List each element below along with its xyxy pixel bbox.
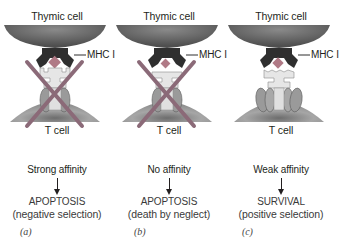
- panel-b-illustration: [112, 0, 226, 160]
- affinity-label: No affinity: [112, 164, 226, 175]
- down-arrow-icon: [169, 178, 170, 192]
- t-cell-label: T cell: [224, 124, 338, 136]
- thymic-cell: [116, 25, 218, 48]
- peptide: [272, 57, 283, 68]
- t-cell-receptor: [264, 70, 294, 88]
- mhc-label: MHC I: [199, 49, 227, 60]
- down-arrow-icon: [281, 178, 282, 192]
- affinity-label: Strong affinity: [0, 164, 114, 175]
- panel-c-illustration: [224, 0, 338, 160]
- outcome-label: APOPTOSIS: [0, 196, 114, 207]
- affinity-label: Weak affinity: [224, 164, 338, 175]
- panel-b: Thymic cell MHC I T cell No affinity APO…: [112, 0, 226, 240]
- panel-letter: (b): [134, 226, 145, 237]
- thymic-cell: [4, 25, 106, 48]
- peptide: [161, 59, 171, 69]
- mhc-label: MHC I: [87, 49, 115, 60]
- selection-detail: (negative selection): [0, 208, 114, 220]
- thymic-cell-label: Thymic cell: [0, 10, 114, 22]
- t-cell-label: T cell: [112, 124, 226, 136]
- outcome-label: SURVIVAL: [224, 196, 338, 207]
- down-arrow-icon: [57, 178, 58, 192]
- t-cell-label: T cell: [0, 124, 114, 136]
- panel-a: Thymic cell MHC I T cell Strong affinity…: [0, 0, 114, 240]
- panel-c: Thymic cell MHC I T cell Weak affinity S…: [224, 0, 338, 240]
- thymic-cell: [228, 25, 330, 48]
- selection-detail: (positive selection): [224, 208, 338, 220]
- panel-letter: (a): [20, 226, 31, 237]
- cd-protein-left-inner: [265, 88, 275, 112]
- mhc-label: MHC I: [311, 49, 339, 60]
- thymic-cell-label: Thymic cell: [224, 10, 338, 22]
- selection-detail: (death by neglect): [112, 208, 226, 220]
- thymic-cell-label: Thymic cell: [112, 10, 226, 22]
- panel-a-illustration: [0, 0, 114, 160]
- panel-letter: (c): [242, 226, 253, 237]
- outcome-label: APOPTOSIS: [112, 196, 226, 207]
